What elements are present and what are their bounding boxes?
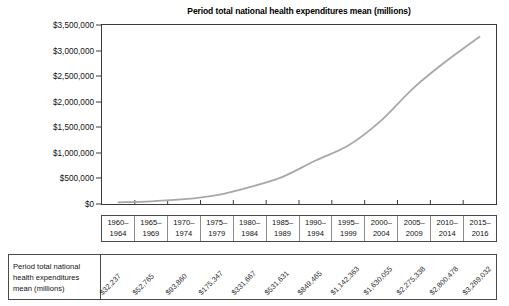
x-axis-category-label-line: 2015– [470,218,491,229]
x-axis-category-cell: 2005–2009 [398,216,431,241]
data-value-label: $1,630,055 [361,264,394,297]
x-axis-category-row: 1960–19641965–19691970–19741975–19791980… [101,215,497,242]
x-axis-category-cell: 2000–2004 [365,216,398,241]
x-axis-category-cell: 1995–1999 [332,216,365,241]
x-axis-category-label-line: 1975– [206,218,227,229]
y-axis-tick-marks [0,24,101,205]
x-axis-category-label-line: 1984 [241,229,258,240]
data-value-label: $331,667 [230,269,258,297]
x-axis-category-label-line: 1980– [239,218,260,229]
x-axis-category-label-line: 1965– [140,218,161,229]
data-value-label: $32,237 [98,272,123,297]
x-axis-category-label-line: 2014 [439,229,456,240]
data-value-label: $2,275,338 [394,264,427,297]
x-axis-category-label-line: 2000– [371,218,392,229]
data-value-label: $3,269,032 [460,264,493,297]
x-axis-category-label-line: 2005– [404,218,425,229]
x-axis-category-label-line: 2009 [406,229,423,240]
data-value-label: $175,347 [197,269,225,297]
x-axis-category-label-line: 1995– [338,218,359,229]
line-series-svg [102,25,496,204]
x-axis-category-cell: 2015–2016 [464,216,496,241]
data-table-row: Period total nationalhealth expenditures… [8,254,497,300]
data-value-cells: $32,237$52,765$93,860$175,347$331,667$53… [101,255,496,299]
x-axis-tick-marks [135,200,463,204]
data-value-label: $849,465 [296,269,324,297]
data-row-label: Period total nationalhealth expenditures… [9,255,101,299]
data-line [118,37,479,203]
x-axis-category-label-line: 1969 [142,229,159,240]
chart-page: Period total national health expenditure… [0,0,509,306]
x-axis-category-label-line: 1964 [110,229,127,240]
x-axis-category-label-line: 1979 [208,229,225,240]
data-value-label: $1,142,363 [329,264,362,297]
x-axis-category-cell: 1960–1964 [102,216,135,241]
x-axis-category-cell: 1985–1989 [267,216,300,241]
x-axis-category-cell: 2010–2014 [431,216,464,241]
x-axis-category-label-line: 1994 [307,229,324,240]
x-axis-category-label-line: 1960– [107,218,128,229]
data-row-label-line: health expenditures [13,272,100,283]
x-axis-category-label-line: 1990– [305,218,326,229]
x-axis-category-cell: 1970–1974 [168,216,201,241]
x-axis-category-label-line: 1999 [340,229,357,240]
data-value-label: $2,800,478 [427,264,460,297]
x-axis-category-label-line: 1970– [173,218,194,229]
data-row-label-line: Period total national [13,261,100,272]
x-axis-category-label-line: 1974 [175,229,192,240]
page-title: Period total national health expenditure… [101,6,497,16]
x-axis-category-label-line: 1989 [274,229,291,240]
x-axis-category-cell: 1965–1969 [135,216,168,241]
x-axis-category-label-line: 2016 [472,229,489,240]
data-value-label: $531,631 [263,269,291,297]
data-value-label: $52,765 [131,272,156,297]
data-row-label-line: mean (millions) [13,283,100,294]
x-axis-category-label-line: 2010– [437,218,458,229]
x-axis-category-label-line: 2004 [373,229,390,240]
x-axis-category-cell: 1980–1984 [234,216,267,241]
plot-area [101,24,497,205]
data-value-label: $93,860 [164,272,189,297]
x-axis-category-label-line: 1985– [272,218,293,229]
x-axis-category-cell: 1975–1979 [201,216,234,241]
x-axis-category-cell: 1990–1994 [300,216,333,241]
